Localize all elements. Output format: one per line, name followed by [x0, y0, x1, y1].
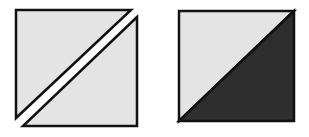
diagram-canvas [0, 0, 309, 137]
split-square [179, 11, 294, 121]
separated-square [16, 10, 137, 126]
